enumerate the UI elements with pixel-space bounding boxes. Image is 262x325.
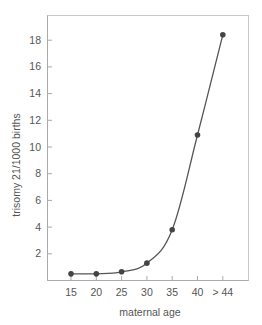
x-tick-label: 35 <box>166 286 178 298</box>
x-tick-label: 40 <box>192 286 204 298</box>
x-axis-ticks: 152025303540> 44 <box>65 276 233 298</box>
data-markers <box>68 32 225 277</box>
y-tick-label: 8 <box>35 167 41 179</box>
data-point <box>220 32 226 38</box>
y-tick-label: 6 <box>35 194 41 206</box>
y-tick-label: 2 <box>35 247 41 259</box>
data-point <box>144 260 150 266</box>
x-tick-label: 25 <box>116 286 128 298</box>
y-tick-label: 18 <box>29 34 41 46</box>
data-point <box>195 132 201 138</box>
y-axis-label: trisomy 21/1000 births <box>10 113 22 216</box>
y-tick-label: 14 <box>29 87 41 99</box>
x-tick-label: > 44 <box>212 286 233 298</box>
data-line <box>71 35 223 274</box>
x-tick-label: 20 <box>90 286 102 298</box>
x-axis-label: maternal age <box>119 306 180 318</box>
line-chart: 24681012141618 152025303540> 44 maternal… <box>0 0 262 325</box>
y-axis-ticks: 24681012141618 <box>29 34 52 260</box>
data-point <box>94 271 100 277</box>
data-point <box>169 227 175 233</box>
data-point <box>119 269 125 275</box>
x-tick-label: 15 <box>65 286 77 298</box>
data-point <box>68 271 74 277</box>
y-tick-label: 16 <box>29 60 41 72</box>
x-tick-label: 30 <box>141 286 153 298</box>
y-tick-label: 4 <box>35 221 41 233</box>
y-tick-label: 10 <box>29 141 41 153</box>
y-tick-label: 12 <box>29 114 41 126</box>
